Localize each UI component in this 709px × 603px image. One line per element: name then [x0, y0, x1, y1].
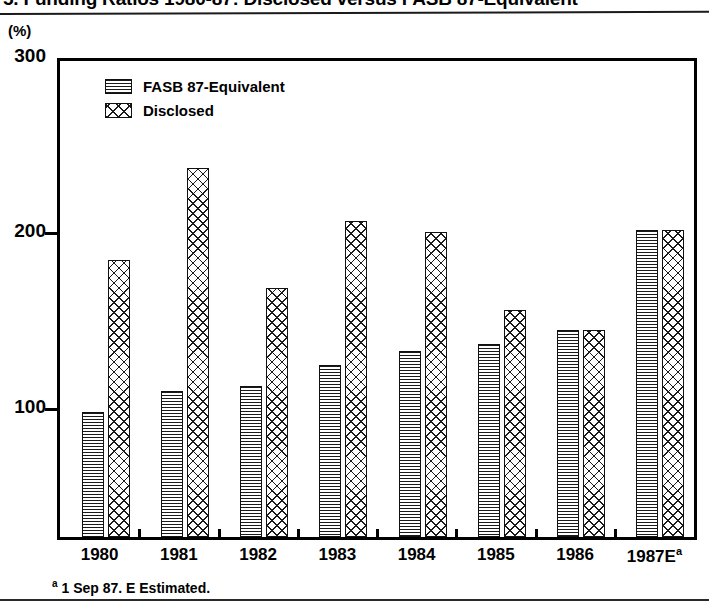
y-tick-label-200: 200 — [0, 220, 46, 242]
x-tick-label-1980: 1980 — [55, 545, 145, 565]
bar-group-1986 — [557, 61, 605, 537]
x-tick-label-1981: 1981 — [134, 545, 224, 565]
bar-group-1982 — [240, 61, 288, 537]
legend-swatch-disclosed-icon — [105, 103, 132, 118]
bar-disclosed-1985 — [504, 310, 526, 537]
x-tick-label-1983: 1983 — [292, 545, 382, 565]
y-tick-label-300: 300 — [0, 45, 46, 67]
x-axis-separator — [138, 529, 141, 540]
bar-fasb87-1984 — [399, 351, 421, 537]
legend-item-disclosed: Disclosed — [105, 102, 285, 119]
y-tick-label-100: 100 — [0, 396, 46, 418]
x-tick-label-1986: 1986 — [530, 545, 620, 565]
legend-item-fasb: FASB 87-Equivalent — [105, 78, 285, 95]
bar-group-1981 — [161, 61, 209, 537]
bar-group-1980 — [82, 61, 130, 537]
legend-label-fasb: FASB 87-Equivalent — [143, 78, 285, 95]
bar-disclosed-1980 — [108, 260, 130, 537]
bar-fasb87-1986 — [557, 330, 579, 537]
bar-disclosed-1984 — [425, 232, 447, 537]
bar-disclosed-1981 — [187, 168, 209, 537]
footnote-marker: a — [52, 578, 58, 589]
x-tick-label-1984: 1984 — [372, 545, 462, 565]
bar-disclosed-1986 — [583, 330, 605, 537]
bars-layer — [60, 61, 694, 537]
bar-fasb87-1980 — [82, 412, 104, 537]
bar-fasb87-1983 — [319, 365, 341, 537]
bottom-divider — [0, 599, 709, 601]
bar-fasb87-1982 — [240, 386, 262, 537]
x-axis-separator — [455, 529, 458, 540]
x-axis-separator — [535, 529, 538, 540]
x-tick-label-1985: 1985 — [451, 545, 541, 565]
x-axis-separator — [297, 529, 300, 540]
legend-swatch-fasb-icon — [105, 79, 132, 94]
bar-fasb87-1985 — [478, 344, 500, 537]
page-title: 5. Funding Ratios 1980-87: Disclosed ver… — [3, 0, 578, 10]
legend-label-disclosed: Disclosed — [143, 102, 214, 119]
bar-group-1985 — [478, 61, 526, 537]
bar-group-1987e — [636, 61, 684, 537]
bar-fasb87-1981 — [161, 391, 183, 537]
x-tick-label-1987e: 1987Ea — [609, 545, 699, 567]
bar-fasb87-1987e — [636, 230, 658, 537]
y-axis-unit-label: (%) — [8, 22, 31, 39]
x-label-footnote-marker: a — [676, 545, 682, 557]
bar-disclosed-1982 — [266, 288, 288, 537]
bar-group-1983 — [319, 61, 367, 537]
x-axis-separator — [376, 529, 379, 540]
bar-disclosed-1983 — [345, 221, 367, 537]
x-axis-separator — [614, 529, 617, 540]
bar-group-1984 — [399, 61, 447, 537]
x-axis-separator — [218, 529, 221, 540]
footnote: a 1 Sep 87. E Estimated. — [52, 578, 210, 596]
footnote-text: 1 Sep 87. E Estimated. — [61, 580, 210, 596]
bar-disclosed-1987e — [662, 230, 684, 537]
legend: FASB 87-Equivalent Disclosed — [105, 78, 285, 126]
x-tick-label-1982: 1982 — [213, 545, 303, 565]
